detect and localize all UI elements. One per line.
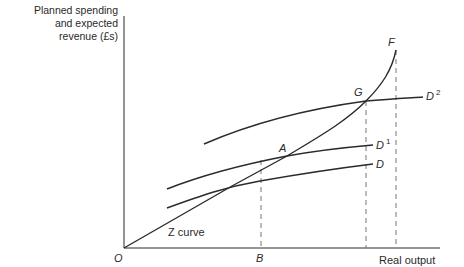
d-curve: [167, 164, 373, 208]
point-b-label: B: [256, 252, 263, 264]
y-axis-label-line-1: Planned spending: [34, 4, 118, 17]
origin-label: O: [114, 252, 123, 264]
d1-label: D1: [376, 139, 390, 153]
point-a-label: A: [279, 142, 286, 154]
d1-label-text: D: [376, 139, 384, 151]
d2-label-superscript: 2: [436, 88, 440, 97]
y-axis-label: Planned spending and expected revenue (£…: [34, 4, 118, 43]
x-axis-label: Real output: [379, 254, 435, 266]
d2-label-text: D: [426, 90, 434, 102]
aggregate-demand-diagram: Planned spending and expected revenue (£…: [0, 0, 464, 267]
d1-curve: [167, 145, 373, 189]
d-label: D: [376, 158, 384, 170]
y-axis-label-line-2: and expected: [34, 17, 118, 30]
z-curve: [124, 50, 396, 248]
d2-label: D2: [426, 90, 440, 104]
point-g-label: G: [354, 86, 363, 98]
d1-label-superscript: 1: [386, 137, 390, 146]
z-curve-label: Z curve: [168, 226, 205, 238]
y-axis-label-line-3: revenue (£s): [34, 30, 118, 43]
point-f-label: F: [388, 36, 395, 48]
d2-curve: [204, 97, 423, 144]
